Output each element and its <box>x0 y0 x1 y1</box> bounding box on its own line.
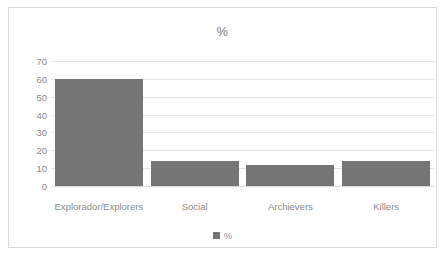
legend-label: % <box>224 230 232 241</box>
y-axis-tick-label: 10 <box>9 163 47 174</box>
y-axis: 706050403020100 <box>9 61 47 186</box>
chart-title: % <box>9 24 436 39</box>
x-axis-category-label: Archievers <box>268 201 313 212</box>
bar-slot <box>55 61 143 186</box>
plot-area <box>51 61 434 186</box>
y-axis-tick-label: 20 <box>9 145 47 156</box>
legend-swatch-icon <box>213 232 220 239</box>
x-axis-category-label: Killers <box>373 201 399 212</box>
bar-series <box>51 61 434 186</box>
x-axis-category-label: Explorador/Explorers <box>55 201 144 212</box>
y-axis-tick-label: 0 <box>9 181 47 192</box>
bar[interactable] <box>151 161 239 186</box>
chart-legend: % <box>9 230 436 241</box>
bar[interactable] <box>55 79 143 186</box>
x-axis-category-label: Social <box>182 201 208 212</box>
bar-slot <box>151 61 239 186</box>
bar[interactable] <box>342 161 430 186</box>
y-axis-tick-label: 30 <box>9 127 47 138</box>
bar[interactable] <box>246 165 334 186</box>
y-axis-tick-label: 60 <box>9 73 47 84</box>
bar-slot <box>342 61 430 186</box>
chart-frame: % 706050403020100 Explorador/ExplorersSo… <box>8 7 437 248</box>
gridline <box>51 186 434 187</box>
y-axis-tick-label: 70 <box>9 56 47 67</box>
y-axis-tick-label: 40 <box>9 109 47 120</box>
x-axis: Explorador/ExplorersSocialArchieversKill… <box>51 201 434 217</box>
y-axis-tick-label: 50 <box>9 91 47 102</box>
bar-slot <box>246 61 334 186</box>
